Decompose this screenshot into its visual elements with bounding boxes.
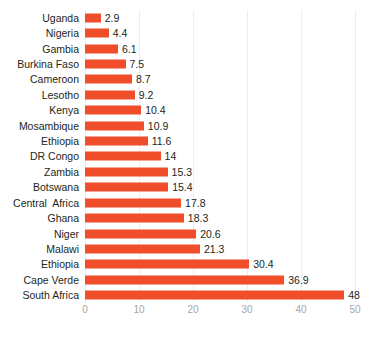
bar-row[interactable]: Lesotho9.2 — [85, 87, 355, 102]
bar-row[interactable]: Niger20.6 — [85, 226, 355, 241]
bar[interactable] — [85, 198, 181, 207]
bar[interactable] — [85, 121, 144, 130]
bar[interactable] — [85, 44, 118, 53]
bar-row[interactable]: Mosambique10.9 — [85, 118, 355, 133]
category-label: Cameroon — [30, 74, 79, 85]
category-label: Malawi — [46, 244, 79, 255]
value-label: 15.4 — [168, 182, 192, 193]
bar-row[interactable]: Cameroon8.7 — [85, 72, 355, 87]
value-label: 20.6 — [196, 228, 220, 239]
category-label: Central Africa — [13, 198, 79, 209]
category-label: Zambia — [44, 167, 79, 178]
category-label: Burkina Faso — [17, 59, 79, 70]
value-label: 10.9 — [144, 120, 168, 131]
value-label: 36.9 — [284, 275, 308, 286]
category-label: Ghana — [47, 213, 79, 224]
value-label: 14 — [161, 151, 177, 162]
category-label: DR Congo — [30, 151, 79, 162]
bar[interactable] — [85, 275, 284, 284]
value-label: 4.4 — [109, 28, 128, 39]
category-label: Botswana — [33, 182, 79, 193]
bar-row[interactable]: Ethiopia11.6 — [85, 133, 355, 148]
bar[interactable] — [85, 260, 249, 269]
x-tick-label: 0 — [82, 305, 88, 315]
bar-row[interactable]: DR Congo14 — [85, 149, 355, 164]
bar-rows: Uganda2.9Nigeria4.4Gambia6.1Burkina Faso… — [85, 10, 355, 303]
value-label: 11.6 — [148, 136, 172, 147]
category-label: Lesotho — [42, 90, 79, 101]
value-label: 9.2 — [135, 90, 154, 101]
bar[interactable] — [85, 137, 148, 146]
category-label: Ethiopia — [41, 259, 79, 270]
bar[interactable] — [85, 75, 132, 84]
value-label: 18.3 — [184, 213, 208, 224]
bar-row[interactable]: Malawi21.3 — [85, 241, 355, 256]
bar-row[interactable]: Burkina Faso7.5 — [85, 56, 355, 71]
category-label: Uganda — [42, 12, 79, 23]
bar[interactable] — [85, 291, 344, 300]
category-label: Nigeria — [46, 28, 79, 39]
value-label: 6.1 — [118, 43, 137, 54]
category-label: Mosambique — [19, 120, 79, 131]
bar-row[interactable]: Zambia15.3 — [85, 164, 355, 179]
value-label: 15.3 — [168, 167, 192, 178]
bar-row[interactable]: Ghana18.3 — [85, 210, 355, 225]
bar[interactable] — [85, 167, 168, 176]
value-label: 8.7 — [132, 74, 151, 85]
bar-row[interactable]: Botswana15.4 — [85, 180, 355, 195]
category-label: Gambia — [42, 43, 79, 54]
value-label: 10.4 — [141, 105, 165, 116]
bar[interactable] — [85, 106, 141, 115]
bar[interactable] — [85, 13, 101, 22]
bar-chart: Uganda2.9Nigeria4.4Gambia6.1Burkina Faso… — [0, 0, 375, 338]
x-axis: 01020304050 — [85, 305, 355, 323]
gridline — [355, 10, 356, 303]
bar[interactable] — [85, 90, 135, 99]
x-tick-label: 30 — [241, 305, 252, 315]
category-label: Niger — [54, 228, 79, 239]
bar[interactable] — [85, 183, 168, 192]
bar-row[interactable]: Ethiopia30.4 — [85, 257, 355, 272]
category-label: Cape Verde — [24, 275, 79, 286]
x-tick-label: 40 — [295, 305, 306, 315]
bar[interactable] — [85, 59, 126, 68]
value-label: 7.5 — [126, 59, 145, 70]
bar[interactable] — [85, 245, 200, 254]
bar[interactable] — [85, 214, 184, 223]
x-tick-label: 10 — [133, 305, 144, 315]
bar-row[interactable]: Kenya10.4 — [85, 103, 355, 118]
bar-row[interactable]: Central Africa17.8 — [85, 195, 355, 210]
bar-row[interactable]: Uganda2.9 — [85, 10, 355, 25]
x-tick-label: 50 — [349, 305, 360, 315]
bar[interactable] — [85, 152, 161, 161]
x-tick-label: 20 — [187, 305, 198, 315]
value-label: 30.4 — [249, 259, 273, 270]
bar-row[interactable]: South Africa48 — [85, 288, 355, 303]
category-label: Ethiopia — [41, 136, 79, 147]
bar[interactable] — [85, 229, 196, 238]
value-label: 17.8 — [181, 198, 205, 209]
bar-row[interactable]: Cape Verde36.9 — [85, 272, 355, 287]
bar-row[interactable]: Nigeria4.4 — [85, 25, 355, 40]
value-label: 21.3 — [200, 244, 224, 255]
bar[interactable] — [85, 29, 109, 38]
plot-area: Uganda2.9Nigeria4.4Gambia6.1Burkina Faso… — [85, 10, 355, 303]
bar-row[interactable]: Gambia6.1 — [85, 41, 355, 56]
value-label: 2.9 — [101, 12, 120, 23]
category-label: Kenya — [49, 105, 79, 116]
category-label: South Africa — [22, 290, 79, 301]
value-label: 48 — [344, 290, 360, 301]
